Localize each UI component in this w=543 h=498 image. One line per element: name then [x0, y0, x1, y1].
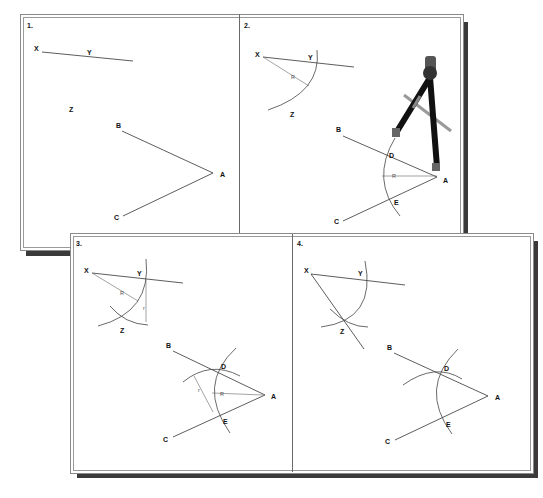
- label-y: Y: [358, 270, 363, 277]
- panel-3: 3. X Y R r Z R r B D A E C: [76, 240, 276, 443]
- label-a: A: [443, 177, 448, 184]
- chord-dimension-d: [194, 376, 213, 412]
- label-b: B: [116, 122, 121, 129]
- label-x: X: [255, 51, 260, 58]
- ray-ab: [122, 131, 213, 173]
- label-x: X: [34, 45, 39, 52]
- radius-label: R: [220, 391, 224, 397]
- chord-label: r: [198, 387, 200, 393]
- ray-ac: [173, 395, 265, 437]
- label-c: C: [114, 214, 119, 221]
- label-z: Z: [69, 106, 74, 113]
- step-number: 3.: [76, 240, 82, 247]
- label-y: Y: [308, 54, 313, 61]
- label-z: Z: [340, 328, 345, 335]
- radius-label: R: [291, 74, 295, 80]
- radius-label: R: [120, 290, 124, 296]
- panel-1: 1. X Y Z B A C: [27, 22, 225, 221]
- arc-from-e: [183, 369, 240, 382]
- radius-label: R: [392, 173, 396, 179]
- label-b: B: [166, 342, 171, 349]
- label-b: B: [387, 344, 392, 351]
- label-b: B: [336, 126, 341, 133]
- ray-ac: [123, 173, 213, 216]
- ray-ac: [343, 177, 437, 221]
- label-z: Z: [290, 111, 295, 118]
- label-y: Y: [87, 49, 92, 56]
- ray-ab: [173, 351, 265, 395]
- ray-ac: [395, 396, 488, 440]
- label-e: E: [394, 199, 399, 206]
- label-z: Z: [120, 327, 125, 334]
- construction-drawing: 1. X Y Z B A C 2. X Y R Z R B D A E C: [0, 0, 543, 498]
- label-y: Y: [137, 270, 142, 277]
- label-x: X: [304, 267, 309, 274]
- label-a: A: [220, 171, 225, 178]
- label-d: D: [221, 363, 226, 370]
- chord-label: r: [143, 305, 145, 311]
- step-number: 4.: [297, 240, 303, 247]
- compass-icon: [392, 56, 451, 171]
- label-x: X: [84, 267, 89, 274]
- label-d: D: [444, 365, 449, 372]
- label-c: C: [163, 436, 168, 443]
- label-c: C: [334, 218, 339, 225]
- label-a: A: [271, 393, 276, 400]
- label-e: E: [446, 421, 451, 428]
- step-number: 2.: [244, 22, 250, 29]
- step-number: 1.: [27, 22, 33, 29]
- label-e: E: [223, 418, 228, 425]
- ray-ab: [394, 353, 488, 396]
- arc-from-e: [403, 372, 462, 385]
- panel-2: 2. X Y R Z R B D A E C: [244, 22, 451, 225]
- label-d: D: [389, 152, 394, 159]
- panel-4: 4. X Y Z B D A E C: [297, 240, 500, 445]
- label-a: A: [495, 394, 500, 401]
- label-c: C: [385, 438, 390, 445]
